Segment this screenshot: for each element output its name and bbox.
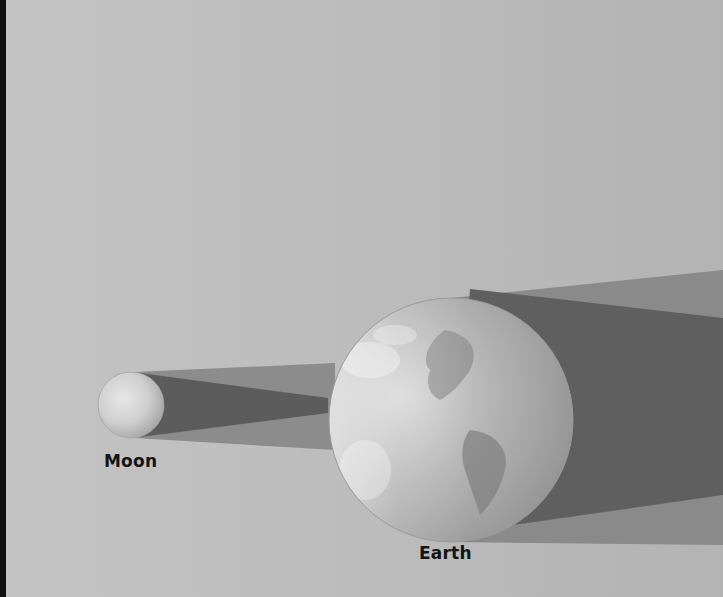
moon-label: Moon [104,451,157,471]
scene [0,0,723,597]
earth-label: Earth [419,543,472,563]
moon-globe [98,372,164,438]
diagram-canvas: Moon Earth [0,0,723,597]
earth-globe [329,298,573,542]
